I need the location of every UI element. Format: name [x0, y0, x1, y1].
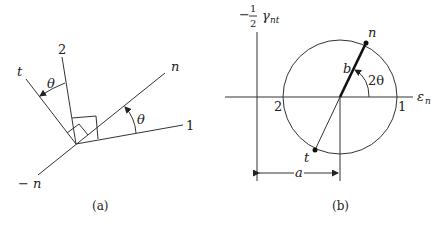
- x-axis-label: ε n: [417, 89, 431, 106]
- figure-b: − 1 2 γ nt ε n n t 1 2 b 2θ a (b): [225, 3, 431, 213]
- label-axis-n: n: [171, 59, 179, 74]
- label-radius-b: b: [343, 61, 351, 76]
- figure-a: 2 t n 1 − n θ θ (a): [17, 42, 194, 213]
- label-theta-upper: θ: [47, 76, 55, 91]
- label-point-n: n: [368, 25, 376, 40]
- label-axis-t: t: [17, 64, 23, 79]
- svg-text:nt: nt: [270, 15, 280, 25]
- axis-n-line: [38, 73, 165, 175]
- svg-text:n: n: [425, 96, 431, 106]
- svg-text:2: 2: [250, 18, 256, 29]
- label-axis-neg-n: − n: [18, 176, 41, 191]
- svg-text:γ: γ: [262, 8, 270, 23]
- label-point-2: 2: [274, 99, 282, 114]
- axis-1-line: [76, 125, 183, 144]
- svg-text:1: 1: [250, 3, 256, 14]
- label-axis-2: 2: [58, 42, 66, 57]
- point-n-dot: [364, 41, 369, 46]
- diameter-t-segment: [315, 97, 340, 150]
- label-point-t: t: [304, 150, 310, 165]
- label-angle-2theta: 2θ: [368, 73, 384, 88]
- label-dim-a: a: [295, 165, 303, 180]
- y-axis-label: − 1 2 γ nt: [239, 3, 280, 29]
- svg-text:−: −: [239, 7, 250, 22]
- theta-arc-lower: [125, 107, 136, 133]
- label-axis-1: 1: [186, 118, 194, 133]
- svg-text:ε: ε: [417, 89, 424, 104]
- point-t-dot: [313, 148, 318, 153]
- caption-b: (b): [332, 199, 349, 213]
- angle-2theta-arc: [355, 70, 369, 97]
- caption-a: (a): [92, 199, 109, 213]
- right-angle-marker-t-n: [67, 124, 88, 135]
- label-theta-lower: θ: [137, 112, 145, 127]
- diagram-canvas: 2 t n 1 − n θ θ (a) − 1 2 γ: [0, 0, 446, 225]
- label-point-1: 1: [398, 99, 406, 114]
- right-angle-marker-1-2: [72, 116, 98, 139]
